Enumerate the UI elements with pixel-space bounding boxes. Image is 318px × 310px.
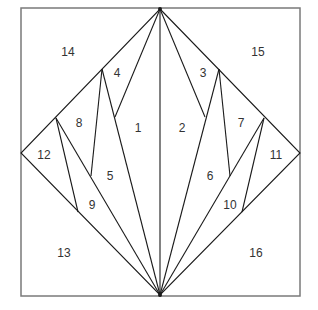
piece-label-13: 13 <box>57 246 71 260</box>
piece-label-12: 12 <box>37 148 51 162</box>
piece-label-8: 8 <box>76 116 83 130</box>
seam-line-l5 <box>56 118 78 212</box>
piece-label-3: 3 <box>200 66 207 80</box>
piece-label-10: 10 <box>223 198 237 212</box>
seam-line-l1 <box>115 9 160 117</box>
seam-line-l4 <box>56 118 160 295</box>
seam-line-r4 <box>160 118 264 295</box>
diagram-canvas: 12345678910111213141516 <box>0 0 318 310</box>
piece-label-14: 14 <box>61 45 75 59</box>
paper-piecing-diagram: 12345678910111213141516 <box>0 0 318 310</box>
piece-label-7: 7 <box>238 116 245 130</box>
piece-seam-lines <box>56 9 264 295</box>
piece-label-9: 9 <box>89 198 96 212</box>
seam-line-r3 <box>219 69 230 176</box>
piece-label-15: 15 <box>251 45 265 59</box>
piece-label-6: 6 <box>207 169 214 183</box>
seam-line-l3 <box>91 69 102 176</box>
piece-label-1: 1 <box>135 121 142 135</box>
piece-label-4: 4 <box>114 66 121 80</box>
bottom-apex-dot <box>158 293 162 297</box>
top-apex-dot <box>158 7 162 11</box>
piece-label-11: 11 <box>270 148 283 162</box>
piece-label-5: 5 <box>107 169 114 183</box>
piece-label-16: 16 <box>249 246 263 260</box>
seam-line-r1 <box>160 9 205 117</box>
piece-label-2: 2 <box>179 121 186 135</box>
seam-line-r5 <box>242 118 264 212</box>
